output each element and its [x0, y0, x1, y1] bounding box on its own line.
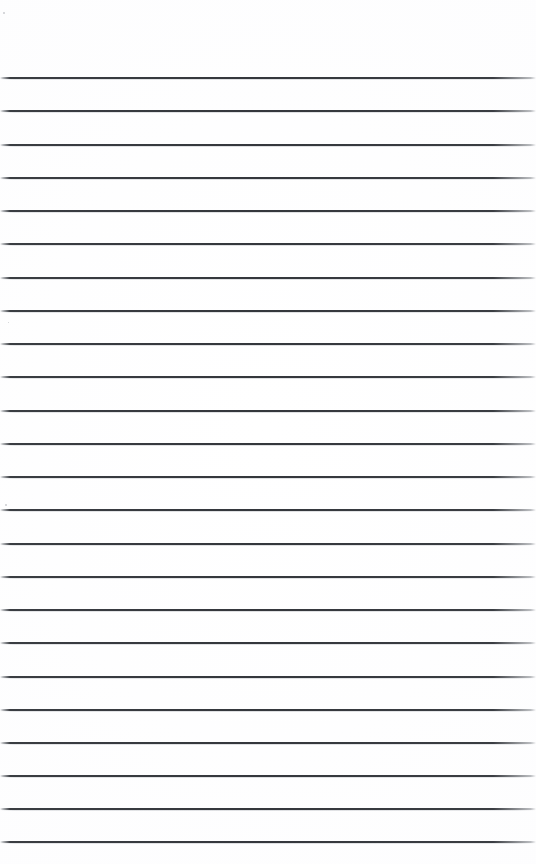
ruled-line: [0, 310, 536, 312]
scan-speck: [5, 504, 7, 506]
ruled-line: [0, 243, 536, 245]
ruled-line: [0, 443, 536, 445]
ruled-line: [0, 808, 536, 810]
ruled-line: [0, 609, 536, 611]
ruled-line: [0, 144, 536, 146]
ruled-line: [0, 376, 536, 378]
scan-speck: [3, 12, 5, 14]
ruled-line: [0, 177, 536, 179]
ruled-lines-layer: [0, 0, 536, 864]
ruled-line: [0, 77, 536, 79]
ruled-line: [0, 742, 536, 744]
ruled-line: [0, 110, 536, 112]
ruled-line: [0, 476, 536, 478]
ruled-line: [0, 775, 536, 777]
notepad-page: [0, 0, 536, 864]
ruled-line: [0, 210, 536, 212]
ruled-line: [0, 343, 536, 345]
ruled-line: [0, 642, 536, 644]
ruled-line: [0, 709, 536, 711]
bottom-margin-area: [0, 841, 536, 864]
scan-speck: [8, 322, 9, 323]
ruled-line: [0, 277, 536, 279]
ruled-line: [0, 676, 536, 678]
ruled-line: [0, 576, 536, 578]
ruled-line: [0, 410, 536, 412]
ruled-line: [0, 509, 536, 511]
ruled-line: [0, 543, 536, 545]
